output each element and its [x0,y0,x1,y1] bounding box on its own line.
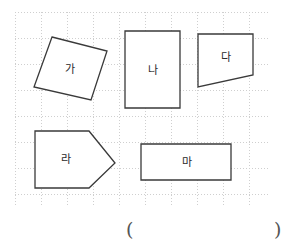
answer-close-paren: ) [274,212,281,247]
shape-label-da: 다 [221,52,231,63]
shape-label-na: 나 [148,65,158,76]
shapes-layer: 가나다라마 [0,0,292,247]
shape-ra[interactable] [35,131,115,188]
shape-label-ga: 가 [65,64,75,75]
shape-label-ma: 마 [182,157,192,168]
answer-blank-row: ( ) [0,212,292,247]
shape-label-ra: 라 [61,154,71,165]
shapes-svg [0,0,292,247]
worksheet-page: 가나다라마 ( ) [0,0,292,247]
answer-open-paren: ( [126,212,133,247]
